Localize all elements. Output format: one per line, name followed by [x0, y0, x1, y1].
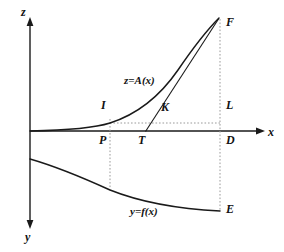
math-figure: F I K L P T D E z=A(x) y=f(x) z x y: [0, 0, 284, 252]
z-axis-arrowhead: [27, 17, 34, 26]
tangent-line-TF: [146, 19, 219, 132]
y-axis-arrowhead: [27, 220, 34, 229]
x-axis-arrowhead: [256, 128, 265, 135]
lower-curve-label: y=f(x): [130, 206, 158, 217]
point-label-P: P: [99, 134, 106, 146]
upper-curve-label: z=A(x): [124, 75, 155, 86]
point-label-L: L: [226, 99, 233, 111]
z-axis-label: z: [21, 6, 26, 18]
point-label-F: F: [226, 16, 234, 28]
y-axis-label: y: [25, 231, 30, 243]
point-label-T: T: [138, 134, 145, 146]
lower-curve-y-f-x: [30, 159, 220, 211]
x-axis-label: x: [268, 126, 274, 138]
point-label-D: D: [226, 134, 235, 146]
point-label-K: K: [161, 101, 169, 113]
point-label-E: E: [226, 203, 234, 215]
point-label-I: I: [101, 99, 106, 111]
